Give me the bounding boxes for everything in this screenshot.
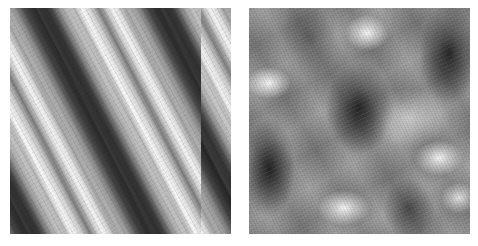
interference-texture-image: [249, 8, 470, 234]
stripe-noise-overlay: [10, 8, 231, 234]
blob-noise-overlay: [249, 8, 470, 234]
stripe-texture-image: [10, 8, 231, 234]
